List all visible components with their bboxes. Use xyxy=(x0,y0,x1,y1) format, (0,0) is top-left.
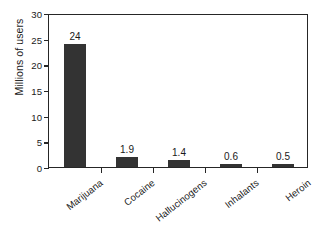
bar-value-label: 0.5 xyxy=(276,151,290,162)
bar: 1.4 xyxy=(168,160,190,167)
y-axis-tick-label: 20 xyxy=(31,60,42,72)
x-axis-category-label-text: Hallucinogens xyxy=(153,177,208,224)
x-axis-category-label-text: Marijuana xyxy=(64,177,105,212)
x-axis-category-label: Hallucinogens xyxy=(153,177,208,224)
bar-value-label: 24 xyxy=(69,31,80,42)
bar: 0.6 xyxy=(220,164,242,167)
plot-area: 051015202530 241.91.40.60.5 xyxy=(48,14,308,168)
y-axis-tick-label: 5 xyxy=(37,137,42,149)
y-axis-tick-mark xyxy=(44,117,49,118)
y-axis-tick-label: 30 xyxy=(31,9,42,21)
x-axis-category-label: Inhalants xyxy=(223,177,261,210)
y-axis-tick-label: 15 xyxy=(31,86,42,98)
y-axis-tick-mark xyxy=(44,14,49,15)
x-axis-category-label-text: Cocaine xyxy=(122,177,157,208)
bar-value-label: 0.6 xyxy=(224,151,238,162)
bar: 0.5 xyxy=(272,164,294,167)
x-axis-tick-mark xyxy=(205,167,206,173)
bar-value-label: 1.9 xyxy=(120,144,134,155)
y-axis-title: Millions of users xyxy=(11,0,27,122)
x-axis-tick-mark xyxy=(101,167,102,173)
bar-chart: Millions of users 051015202530 241.91.40… xyxy=(0,0,329,232)
x-axis-category-label: Marijuana xyxy=(64,177,105,212)
x-axis-tick-mark xyxy=(153,167,154,173)
y-axis-tick-mark xyxy=(44,142,49,143)
bar-value-label: 1.4 xyxy=(172,147,186,158)
x-axis-category-label: Heroin xyxy=(283,177,313,203)
y-axis-tick-mark xyxy=(44,91,49,92)
y-axis-tick-label: 10 xyxy=(31,112,42,124)
y-axis-tick-mark xyxy=(44,168,49,169)
y-axis-tick-label: 0 xyxy=(37,163,42,175)
x-axis-category-label-text: Inhalants xyxy=(223,177,261,210)
x-axis-tick-mark xyxy=(257,167,258,173)
y-axis-tick-mark xyxy=(44,40,49,41)
y-axis-tick-label: 25 xyxy=(31,35,42,47)
x-axis-category-label-text: Heroin xyxy=(283,177,313,203)
bar: 24 xyxy=(64,44,86,167)
bar: 1.9 xyxy=(116,157,138,167)
y-axis-tick-mark xyxy=(44,65,49,66)
x-axis-category-label: Cocaine xyxy=(122,177,157,208)
